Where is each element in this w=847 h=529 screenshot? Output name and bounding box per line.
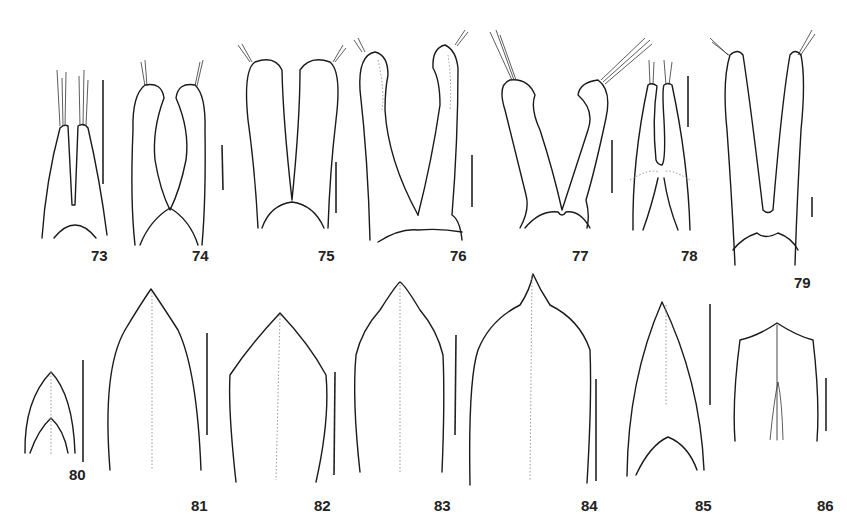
- figure-77-drawing: [490, 30, 652, 228]
- figure-74-drawing: [132, 60, 223, 245]
- figure-plate: [0, 0, 847, 529]
- figure-label-74: 74: [192, 247, 209, 264]
- figure-label-85: 85: [695, 497, 712, 514]
- figure-73-drawing: [42, 70, 107, 238]
- figure-label-81: 81: [191, 497, 208, 514]
- figure-label-77: 77: [572, 247, 589, 264]
- figure-label-82: 82: [314, 497, 331, 514]
- figure-label-86: 86: [817, 497, 834, 514]
- figure-label-84: 84: [581, 497, 598, 514]
- figure-82-drawing: [230, 313, 335, 482]
- figure-83-drawing: [355, 282, 456, 472]
- figure-81-drawing: [108, 289, 207, 470]
- figure-78-drawing: [630, 60, 690, 230]
- figure-label-80: 80: [69, 466, 86, 483]
- figure-76-drawing: [354, 30, 472, 242]
- figure-79-drawing: [710, 30, 815, 265]
- figure-80-drawing: [25, 360, 83, 462]
- figure-86-drawing: [734, 323, 826, 441]
- figure-84-drawing: [470, 274, 596, 485]
- figure-label-83: 83: [434, 497, 451, 514]
- figure-85-drawing: [627, 302, 710, 476]
- figure-label-78: 78: [681, 247, 698, 264]
- figure-75-drawing: [238, 44, 346, 228]
- figure-label-76: 76: [450, 247, 467, 264]
- figure-label-79: 79: [794, 274, 811, 291]
- figure-label-75: 75: [318, 247, 335, 264]
- figure-label-73: 73: [91, 247, 108, 264]
